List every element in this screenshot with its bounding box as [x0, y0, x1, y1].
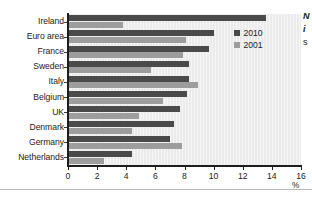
legend-swatch-icon-2001 — [234, 42, 240, 48]
legend-item-2001[interactable]: 2001 — [234, 39, 286, 51]
bar-group — [68, 150, 301, 165]
bar-group — [68, 59, 301, 74]
bar-group — [68, 74, 301, 89]
y-axis-line — [67, 13, 69, 166]
bar-netherlands-2010[interactable] — [68, 151, 132, 157]
margin-note-line: N — [303, 10, 312, 23]
y-axis-tick — [64, 97, 67, 98]
figure: IrelandEuro areaFranceSwedenItalyBelgium… — [0, 0, 312, 202]
legend-swatch-icon-2010 — [234, 30, 240, 36]
y-axis-tick — [64, 22, 67, 23]
x-axis-label-10: 10 — [203, 171, 225, 182]
bar-france-2010[interactable] — [68, 46, 209, 52]
bar-ireland-2001[interactable] — [68, 22, 123, 28]
y-axis-category-labels: IrelandEuro areaFranceSwedenItalyBelgium… — [0, 14, 64, 165]
bar-uk-2001[interactable] — [68, 113, 139, 119]
bar-sweden-2010[interactable] — [68, 61, 189, 67]
x-axis-label-8: 8 — [174, 171, 196, 182]
y-axis-label-ireland: Ireland — [0, 14, 64, 29]
x-axis-tick-10 — [214, 166, 215, 170]
y-axis-tick — [64, 52, 67, 53]
bar-group — [68, 120, 301, 135]
margin-note-line: s — [303, 36, 312, 49]
y-axis-label-italy: Italy — [0, 74, 64, 89]
margin-note-clipped: Nis — [303, 10, 312, 58]
x-axis-label-0: 0 — [57, 171, 79, 182]
bar-germany-2010[interactable] — [68, 136, 170, 142]
y-axis-tick — [64, 142, 67, 143]
y-axis-tick — [64, 112, 67, 113]
y-axis-label-germany: Germany — [0, 135, 64, 150]
page-bottom-margin — [0, 190, 312, 202]
legend-label-2001: 2001 — [244, 40, 263, 50]
y-axis-label-euro-area: Euro area — [0, 29, 64, 44]
x-axis-tick-6 — [155, 166, 156, 170]
y-axis-label-netherlands: Netherlands — [0, 150, 64, 165]
y-axis-label-france: France — [0, 44, 64, 59]
bar-denmark-2001[interactable] — [68, 128, 132, 134]
bar-group — [68, 90, 301, 105]
legend-item-2010[interactable]: 2010 — [234, 27, 286, 39]
bar-group — [68, 135, 301, 150]
x-axis-label-4: 4 — [115, 171, 137, 182]
y-axis-label-uk: UK — [0, 105, 64, 120]
x-axis-tick-8 — [185, 166, 186, 170]
bar-italy-2010[interactable] — [68, 76, 189, 82]
x-axis-tick-2 — [97, 166, 98, 170]
bar-uk-2010[interactable] — [68, 106, 180, 112]
x-axis-label-14: 14 — [261, 171, 283, 182]
x-axis-label-2: 2 — [86, 171, 108, 182]
y-axis-tick — [64, 67, 67, 68]
bar-germany-2001[interactable] — [68, 143, 182, 149]
bar-france-2001[interactable] — [68, 52, 183, 58]
margin-note-line: i — [303, 23, 312, 36]
y-axis-label-belgium: Belgium — [0, 90, 64, 105]
legend-label-2010: 2010 — [244, 28, 263, 38]
bar-euro-area-2001[interactable] — [68, 37, 186, 43]
bar-belgium-2001[interactable] — [68, 98, 163, 104]
y-axis-label-sweden: Sweden — [0, 59, 64, 74]
bar-group — [68, 105, 301, 120]
y-axis-tick — [64, 127, 67, 128]
bar-ireland-2010[interactable] — [68, 15, 266, 21]
bar-belgium-2010[interactable] — [68, 91, 187, 97]
x-axis-tick-14 — [272, 166, 273, 170]
bar-denmark-2010[interactable] — [68, 121, 174, 127]
x-axis-label-12: 12 — [232, 171, 254, 182]
x-axis-tick-12 — [243, 166, 244, 170]
x-axis-tick-16 — [301, 166, 302, 170]
y-axis-tick — [64, 37, 67, 38]
bar-italy-2001[interactable] — [68, 82, 198, 88]
x-axis-tick-4 — [126, 166, 127, 170]
bar-sweden-2001[interactable] — [68, 67, 151, 73]
x-axis-tick-0 — [68, 166, 69, 170]
bar-euro-area-2010[interactable] — [68, 30, 214, 36]
bar-netherlands-2001[interactable] — [68, 158, 104, 164]
x-axis-label-6: 6 — [144, 171, 166, 182]
y-axis-tick — [64, 157, 67, 158]
legend: 2010 2001 — [234, 27, 286, 51]
y-axis-label-denmark: Denmark — [0, 120, 64, 135]
y-axis-tick — [64, 82, 67, 83]
